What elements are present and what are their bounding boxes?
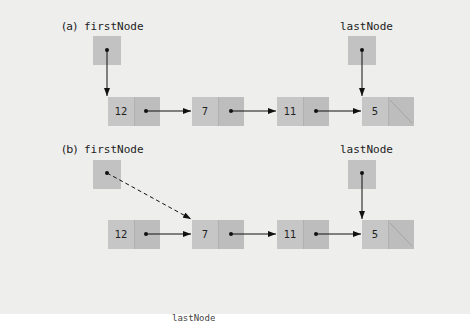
- null-slash-icon: [390, 223, 412, 246]
- arrows-layer: [0, 0, 476, 326]
- null-slash-icon: [390, 100, 412, 123]
